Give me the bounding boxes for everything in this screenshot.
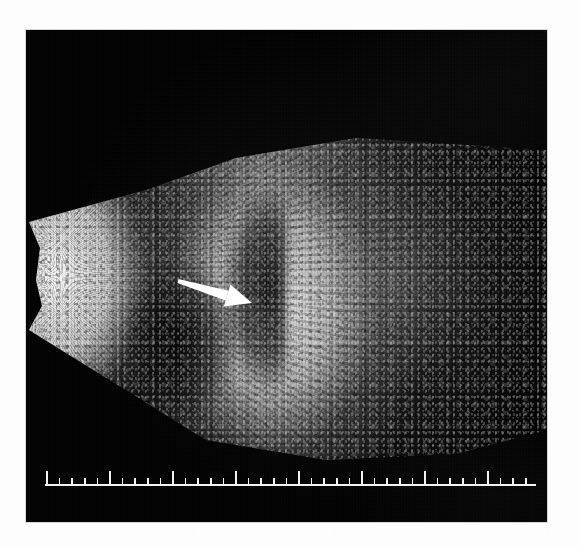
ultrasound-sector — [26, 30, 547, 522]
ultrasound-scan-panel — [26, 30, 547, 522]
figure-root — [0, 0, 579, 547]
sector-tissue-field — [26, 30, 547, 522]
ruler-ticks — [47, 471, 526, 485]
